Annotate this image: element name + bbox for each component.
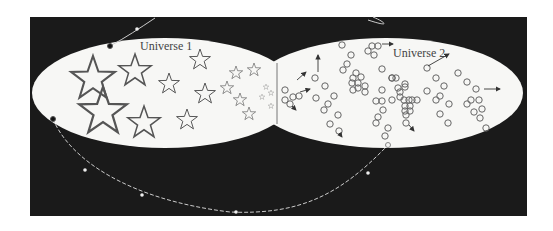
path-marker bbox=[366, 171, 370, 175]
path-marker bbox=[83, 168, 87, 172]
path-endpoint bbox=[108, 44, 113, 49]
multiverse-diagram: Universe 1 Universe 2 bbox=[0, 0, 553, 231]
diagram-canvas: Universe 1 Universe 2 bbox=[0, 0, 553, 231]
path-endpoint bbox=[386, 143, 391, 148]
path-endpoint bbox=[51, 117, 56, 122]
universe-1-label: Universe 1 bbox=[140, 39, 192, 53]
universe-2-ellipse bbox=[249, 38, 523, 148]
universe-2-label: Universe 2 bbox=[393, 46, 445, 60]
path-marker bbox=[234, 210, 238, 214]
path-marker bbox=[140, 193, 144, 197]
path-marker bbox=[135, 27, 139, 31]
